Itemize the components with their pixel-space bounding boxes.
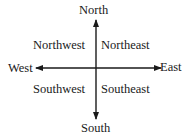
label-southeast: Southeast [101,82,150,96]
label-west: West [8,61,33,75]
label-north: North [79,3,108,17]
label-east: East [160,60,182,74]
label-northeast: Northeast [101,38,150,52]
label-northwest: Northwest [33,38,85,52]
label-south: South [81,121,110,135]
label-southwest: Southwest [33,82,85,96]
